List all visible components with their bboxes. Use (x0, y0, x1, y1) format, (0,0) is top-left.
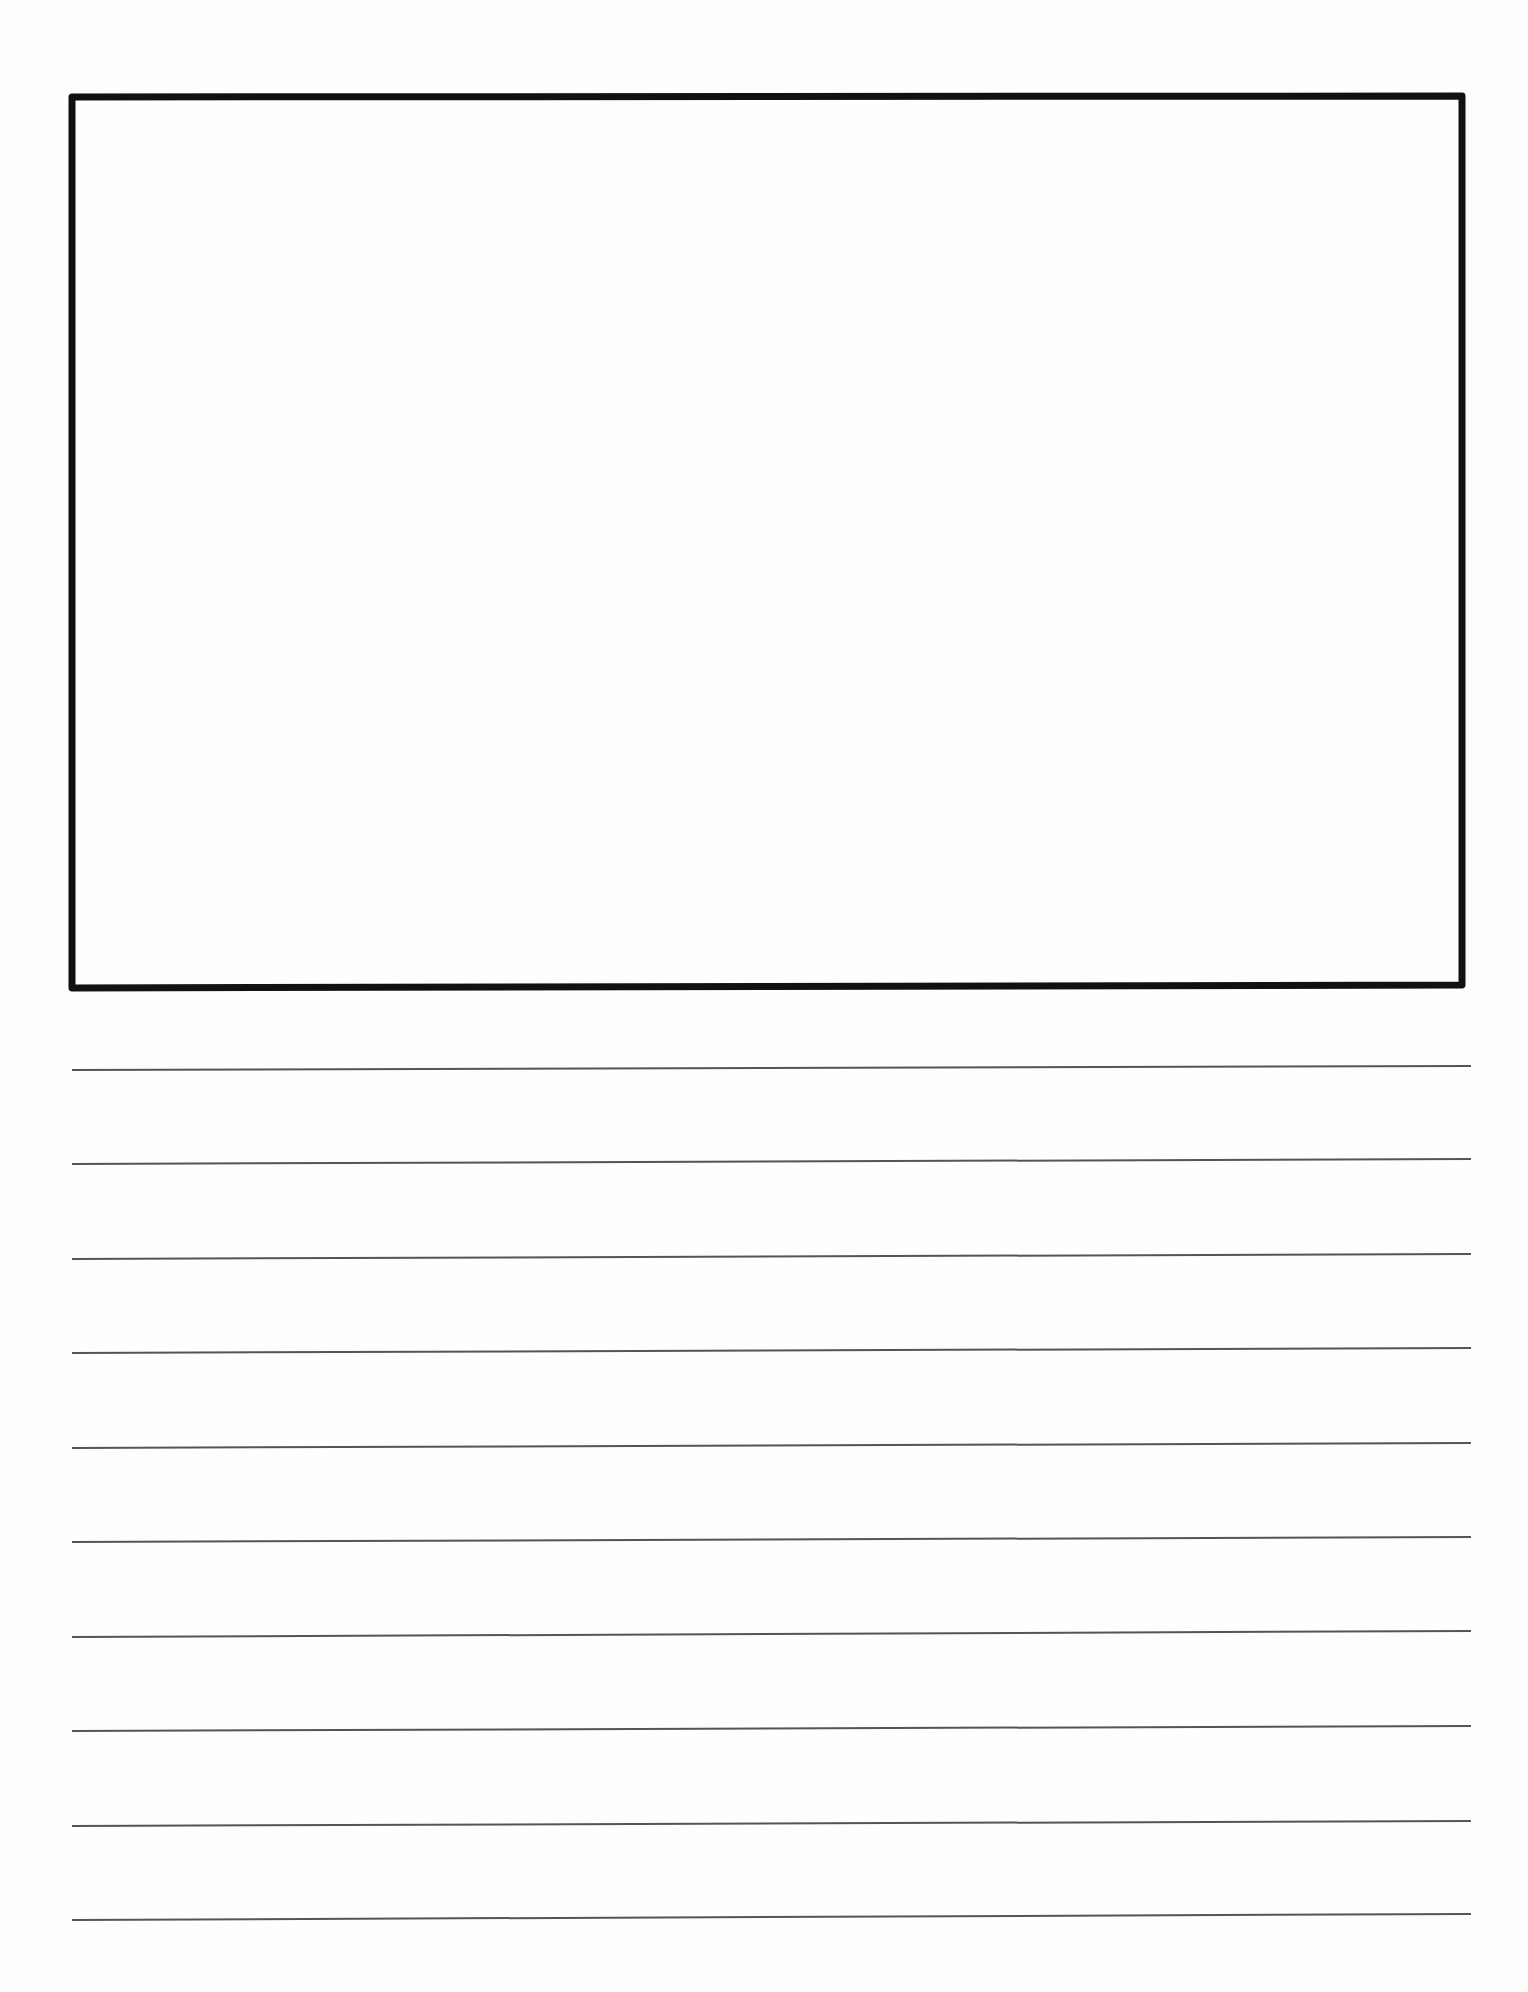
writing-paper-page (0, 0, 1528, 1992)
drawing-box (72, 96, 1462, 988)
writing-line (72, 1631, 1471, 1637)
writing-line (72, 1537, 1471, 1542)
page-canvas (0, 0, 1528, 1992)
writing-line (72, 1066, 1471, 1070)
writing-line (72, 1348, 1471, 1353)
writing-lines (72, 1066, 1471, 1920)
writing-line (72, 1914, 1471, 1920)
writing-line (72, 1159, 1471, 1164)
writing-line (72, 1254, 1471, 1259)
writing-line (72, 1443, 1471, 1448)
writing-line (72, 1726, 1471, 1731)
writing-line (72, 1821, 1471, 1826)
